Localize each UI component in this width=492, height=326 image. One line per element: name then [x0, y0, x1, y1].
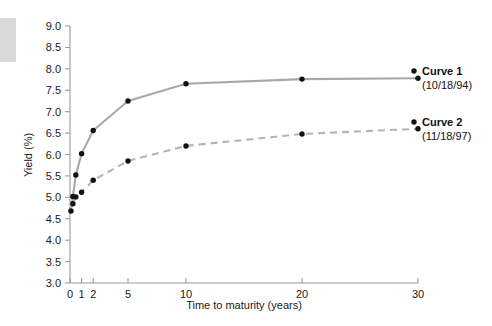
data-point [125, 98, 130, 103]
legend-label: Curve 2 [422, 116, 462, 128]
legend-sublabel: (10/18/94) [422, 79, 472, 91]
y-tick-label: 4.5 [46, 213, 61, 225]
y-tick-label: 5.5 [46, 170, 61, 182]
x-tick-label: 5 [125, 288, 131, 300]
x-axis: 0125102030 [67, 278, 424, 300]
data-point [91, 178, 96, 183]
y-tick-label: 8.0 [46, 63, 61, 75]
y-axis-tick-labels: 3.03.54.04.55.05.56.06.57.07.58.08.59.0 [46, 20, 61, 289]
legend-label: Curve 1 [422, 65, 462, 77]
data-point [73, 172, 78, 177]
data-point [68, 208, 73, 213]
y-tick-label: 4.0 [46, 234, 61, 246]
series-1 [68, 76, 420, 214]
y-tick-label: 3.0 [46, 277, 61, 289]
data-point [415, 76, 420, 81]
chart-container: 3.03.54.04.55.05.56.06.57.07.58.08.59.0 … [0, 0, 492, 326]
y-tick-label: 8.5 [46, 41, 61, 53]
series-line [71, 78, 418, 211]
data-series-group [68, 76, 420, 214]
legend-marker [411, 68, 416, 73]
y-tick-label: 6.0 [46, 149, 61, 161]
legend-marker [411, 119, 416, 124]
y-tick-label: 7.0 [46, 106, 61, 118]
data-point [73, 194, 78, 199]
series-line [73, 129, 418, 204]
data-point [299, 76, 304, 81]
x-axis-title: Time to maturity (years) [186, 299, 302, 311]
data-point [415, 126, 420, 131]
yield-curve-chart: 3.03.54.04.55.05.56.06.57.07.58.08.59.0 … [0, 0, 492, 326]
y-tick-label: 5.0 [46, 191, 61, 203]
x-tick-label: 1 [79, 288, 85, 300]
data-point [91, 128, 96, 133]
data-point [125, 158, 130, 163]
x-tick-label: 0 [67, 288, 73, 300]
y-tick-label: 3.5 [46, 256, 61, 268]
legend-sublabel: (11/18/97) [422, 130, 471, 142]
y-axis-ticks [65, 26, 70, 283]
y-tick-label: 9.0 [46, 20, 61, 32]
data-point [79, 189, 84, 194]
y-axis-title: Yield (%) [22, 133, 34, 177]
chart-legend: Curve 1(10/18/94)Curve 2(11/18/97) [411, 65, 472, 142]
data-point [299, 131, 304, 136]
data-point [183, 143, 188, 148]
y-tick-label: 6.5 [46, 127, 61, 139]
x-tick-label: 2 [90, 288, 96, 300]
data-point [183, 81, 188, 86]
data-point [79, 151, 84, 156]
x-axis-ticks [70, 278, 418, 283]
x-tick-label: 30 [412, 288, 424, 300]
data-point [70, 201, 75, 206]
y-tick-label: 7.5 [46, 84, 61, 96]
y-axis: 3.03.54.04.55.05.56.06.57.07.58.08.59.0 [46, 20, 70, 289]
series-2 [70, 126, 420, 206]
